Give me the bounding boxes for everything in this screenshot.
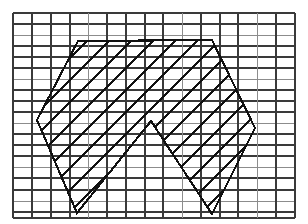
figure-root xyxy=(0,0,308,224)
polygon-grid-diagram xyxy=(0,0,308,224)
